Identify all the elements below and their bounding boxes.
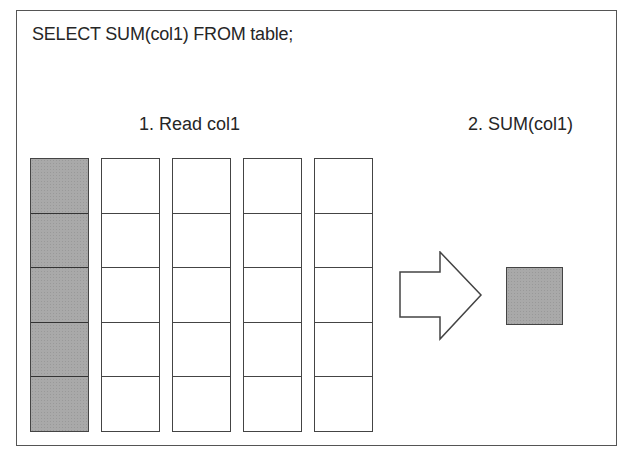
table-cell <box>102 323 159 378</box>
table-cell <box>244 268 301 323</box>
table-cell <box>244 377 301 431</box>
table-cell <box>102 214 159 269</box>
table-cell <box>173 323 230 378</box>
column-col1-highlighted <box>30 158 89 432</box>
table-cell <box>315 268 372 323</box>
table-cell <box>315 159 372 214</box>
table-cell <box>173 214 230 269</box>
sql-query: SELECT SUM(col1) FROM table; <box>32 24 293 45</box>
table-cell <box>244 323 301 378</box>
table-cell <box>173 377 230 431</box>
table-cell <box>315 377 372 431</box>
table-cell <box>102 268 159 323</box>
table-cell <box>31 214 88 269</box>
table-cell <box>173 268 230 323</box>
column-col5 <box>314 158 373 432</box>
step-2-label: 2. SUM(col1) <box>468 114 573 135</box>
table-cell <box>315 323 372 378</box>
table-cell <box>31 268 88 323</box>
table-cell <box>102 159 159 214</box>
column-col3 <box>172 158 231 432</box>
step-1-label: 1. Read col1 <box>139 114 240 135</box>
sum-result-cell <box>506 267 563 325</box>
table-cell <box>102 377 159 431</box>
column-col4 <box>243 158 302 432</box>
table-cell <box>244 159 301 214</box>
table-cell <box>31 377 88 431</box>
table-cell <box>31 323 88 378</box>
table-cell <box>244 214 301 269</box>
table-cell <box>173 159 230 214</box>
table-cell <box>315 214 372 269</box>
right-arrow-icon <box>399 251 485 343</box>
table-cell <box>31 159 88 214</box>
column-col2 <box>101 158 160 432</box>
